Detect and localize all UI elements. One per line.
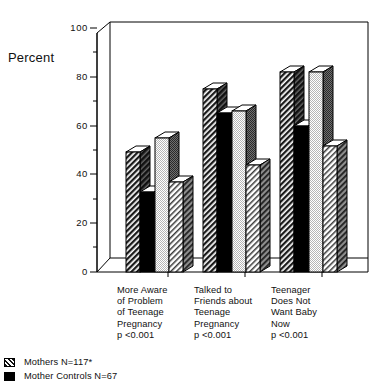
y-tick-80: 80: [62, 71, 88, 82]
bar-g3-s4: [323, 140, 347, 272]
legend-label-mothers: Mothers N=117*: [24, 355, 92, 369]
legend-swatch-hatch-dark-icon: [4, 358, 15, 367]
y-tick-40: 40: [62, 168, 88, 179]
legend-item-mothers: Mothers N=117*: [4, 355, 117, 369]
bar-g1-s4: [169, 176, 193, 272]
legend-swatch-solid-black-icon: [4, 372, 15, 381]
chart-legend: Mothers N=117* Mother Controls N=67: [4, 355, 117, 383]
y-tick-100: 100: [62, 22, 88, 33]
x-category-label-3: Teenager Does Not Want Baby Now p <0.001: [271, 285, 317, 341]
x-axis-ticks: [168, 272, 322, 277]
x-category-label-2: Talked to Friends about Teenage Pregnanc…: [194, 285, 252, 341]
x-category-label-1: More Aware of Problem of Teenage Pregnan…: [117, 285, 167, 341]
legend-item-mother-controls: Mother Controls N=67: [4, 369, 117, 383]
legend-label-mother-controls: Mother Controls N=67: [24, 369, 117, 383]
y-axis-ticks: [90, 28, 97, 272]
bar-chart: Percent: [0, 0, 386, 389]
chart-canvas: [0, 0, 386, 389]
y-tick-0: 0: [62, 266, 88, 277]
y-tick-60: 60: [62, 120, 88, 131]
bar-g2-s4: [246, 159, 270, 272]
y-tick-20: 20: [62, 217, 88, 228]
